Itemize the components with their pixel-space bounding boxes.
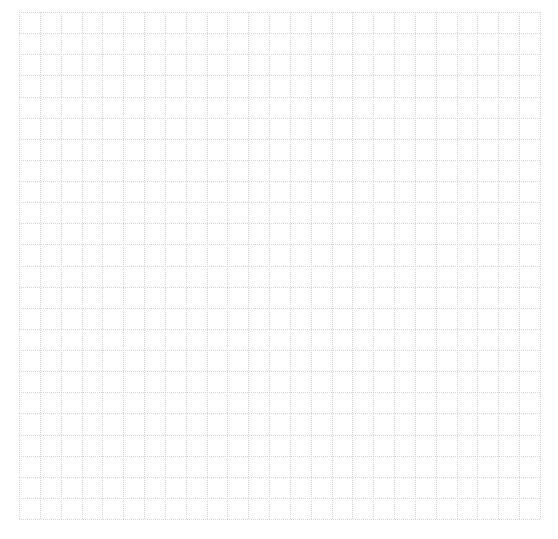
- grid-lines: [19, 12, 541, 520]
- graph-paper-grid: [19, 12, 540, 519]
